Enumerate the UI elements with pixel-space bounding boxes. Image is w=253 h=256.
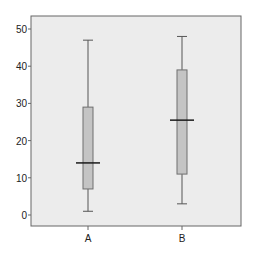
plot-area xyxy=(31,16,241,226)
y-tick-label: 30 xyxy=(16,98,28,109)
x-tick-label: B xyxy=(179,233,186,244)
y-tick-label: 50 xyxy=(16,24,28,35)
x-tick-label: A xyxy=(85,233,92,244)
y-axis: 01020304050 xyxy=(16,24,31,221)
box-plot-chart: 01020304050 AB xyxy=(0,0,253,256)
y-tick-label: 20 xyxy=(16,136,28,147)
y-tick-label: 40 xyxy=(16,61,28,72)
iqr-box xyxy=(83,107,93,189)
iqr-box xyxy=(177,70,187,174)
x-axis: AB xyxy=(85,226,186,244)
y-tick-label: 0 xyxy=(21,210,27,221)
y-tick-label: 10 xyxy=(16,173,28,184)
